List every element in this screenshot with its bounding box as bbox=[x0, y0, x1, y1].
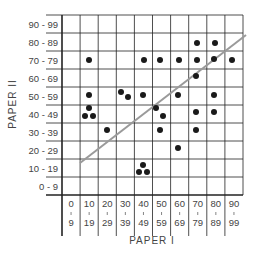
y-tick-label: 10 - 19 bbox=[28, 163, 58, 174]
x-tick-label-top: 70 bbox=[192, 198, 203, 209]
x-tick-label-bottom: 9 bbox=[68, 217, 73, 228]
y-tick-label: 80 - 89 bbox=[28, 37, 58, 48]
data-point bbox=[118, 89, 124, 95]
data-point bbox=[194, 40, 200, 46]
x-axis-label: PAPER I bbox=[129, 235, 175, 246]
data-point bbox=[175, 92, 181, 98]
data-point bbox=[175, 145, 181, 151]
data-point bbox=[82, 113, 88, 119]
data-point bbox=[141, 57, 147, 63]
x-tick-label-top: 80 bbox=[211, 198, 222, 209]
data-point bbox=[153, 105, 159, 111]
y-tick-label: 40 - 49 bbox=[28, 109, 58, 120]
data-point bbox=[157, 127, 163, 133]
data-point bbox=[157, 57, 163, 63]
x-tick-label-bottom: 39 bbox=[120, 217, 131, 228]
y-tick-label: 60 - 69 bbox=[28, 73, 58, 84]
x-tick-label-bottom: 99 bbox=[229, 217, 240, 228]
x-tick-label-top: 90 bbox=[229, 198, 240, 209]
data-point bbox=[125, 94, 131, 100]
y-tick-label: 0 - 9 bbox=[39, 181, 58, 192]
data-point bbox=[104, 127, 110, 133]
x-tick-label-top: 10 bbox=[84, 198, 95, 209]
data-point bbox=[194, 57, 200, 63]
x-tick-label-bottom: 89 bbox=[211, 217, 222, 228]
y-tick-label: 20 - 29 bbox=[28, 145, 58, 156]
data-point bbox=[193, 73, 199, 79]
x-tick-label-top: 60 bbox=[174, 198, 185, 209]
data-points bbox=[82, 40, 235, 175]
x-tick-label-bottom: 59 bbox=[156, 217, 167, 228]
data-point bbox=[193, 109, 199, 115]
data-point bbox=[140, 162, 146, 168]
data-point bbox=[211, 56, 217, 62]
y-tick-label: 50 - 59 bbox=[28, 91, 58, 102]
x-tick-label-top: 0 bbox=[68, 198, 73, 209]
x-tick-label-bottom: 49 bbox=[138, 217, 149, 228]
y-tick-label: 70 - 79 bbox=[28, 55, 58, 66]
x-tick-label-top: 40 bbox=[138, 198, 149, 209]
x-tick-label-bottom: 69 bbox=[174, 217, 185, 228]
data-point bbox=[90, 113, 96, 119]
y-tick-label: 90 - 99 bbox=[28, 19, 58, 30]
y-axis-label: PAPER II bbox=[7, 79, 18, 129]
data-point bbox=[176, 57, 182, 63]
data-point bbox=[212, 40, 218, 46]
y-tick-label: 30 - 39 bbox=[28, 127, 58, 138]
x-tick-label-bottom: 79 bbox=[192, 217, 203, 228]
data-point bbox=[86, 105, 92, 111]
data-point bbox=[193, 127, 199, 133]
scatter-chart: 0 - 910 - 1920 - 2930 - 3940 - 4950 - 59… bbox=[0, 0, 254, 257]
data-point bbox=[211, 109, 217, 115]
x-axis-tick-labels: 09101920293039404950596069707980899099 bbox=[68, 198, 239, 228]
data-point bbox=[144, 169, 150, 175]
data-point bbox=[140, 92, 146, 98]
data-point bbox=[86, 92, 92, 98]
trend-line bbox=[80, 35, 246, 163]
x-tick-label-bottom: 19 bbox=[84, 217, 95, 228]
x-tick-label-bottom: 29 bbox=[102, 217, 113, 228]
x-tick-label-top: 50 bbox=[156, 198, 167, 209]
data-point bbox=[229, 57, 235, 63]
data-point bbox=[86, 57, 92, 63]
data-point bbox=[211, 92, 217, 98]
data-point bbox=[136, 169, 142, 175]
data-point bbox=[160, 113, 166, 119]
x-tick-label-top: 20 bbox=[102, 198, 113, 209]
x-tick-label-top: 30 bbox=[120, 198, 131, 209]
